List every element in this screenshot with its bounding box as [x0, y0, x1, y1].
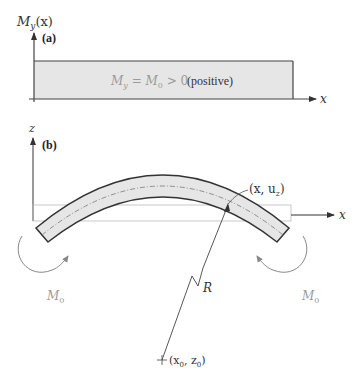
panel-a: My(x) (a) x My = M0 > 0 (positive): [16, 14, 327, 106]
y-axis-label: My(x): [16, 14, 53, 31]
moment-left-label: M0: [46, 289, 64, 305]
radius-line: [162, 205, 228, 360]
panel-b: z (b) x M0 M0 R (x, uz) (x0, z0): [18, 122, 346, 369]
moment-sign-note: (positive): [187, 74, 233, 88]
point-label: (x, uz): [249, 182, 285, 198]
moment-equation: My = M0 > 0: [110, 74, 188, 90]
curvature-center-label: (x0, z0): [169, 354, 206, 369]
x-axis-label: x: [320, 92, 327, 106]
x-axis-label: x: [339, 208, 346, 222]
radius-label: R: [202, 281, 212, 295]
moment-arrow-right: [257, 236, 307, 272]
moment-right-label: M0: [301, 289, 319, 305]
moment-arrow-left: [18, 236, 68, 272]
panel-a-label: (a): [42, 31, 56, 45]
curvature-center-marker: [157, 355, 167, 365]
z-axis-label: z: [28, 122, 35, 135]
panel-b-label: (b): [42, 138, 57, 152]
beam-bending-diagram: My(x) (a) x My = M0 > 0 (positive) z (b)…: [0, 0, 363, 382]
